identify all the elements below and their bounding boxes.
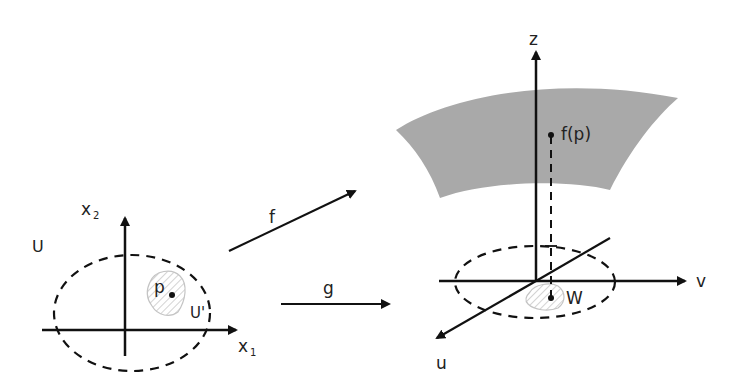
region-U-prime — [147, 271, 185, 315]
label-x2-sub: 2 — [93, 210, 99, 221]
region-W — [526, 284, 564, 310]
label-W: W — [566, 288, 583, 308]
label-g: g — [323, 278, 334, 298]
label-f: f — [269, 207, 276, 227]
label-U-prime: U' — [190, 304, 205, 322]
point-p — [169, 292, 175, 298]
domain-plane: U p U' x 2 x 1 — [32, 199, 256, 371]
label-z: z — [529, 29, 538, 49]
label-x2: x — [81, 199, 91, 219]
label-u: u — [436, 353, 447, 373]
label-v: v — [696, 271, 706, 291]
label-x1: x — [238, 336, 248, 356]
point-fp — [548, 132, 554, 138]
label-x1-sub: 1 — [250, 347, 256, 358]
label-fp: f(p) — [561, 124, 591, 144]
domain-U-boundary — [54, 255, 210, 371]
target-space: z f(p) v W u — [396, 29, 706, 373]
point-in-W — [548, 295, 554, 301]
diagram-canvas: U p U' x 2 x 1 f g z f(p) v W u — [0, 0, 737, 392]
u-axis — [437, 281, 536, 338]
map-f-arrow — [229, 191, 355, 251]
label-U: U — [32, 237, 44, 256]
u-axis-back — [536, 238, 610, 281]
label-p: p — [154, 277, 165, 297]
maps: f g — [229, 191, 389, 304]
